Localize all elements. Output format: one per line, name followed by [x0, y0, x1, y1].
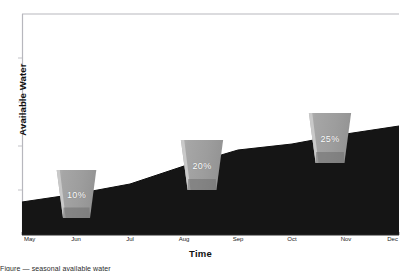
bucket-callout-nov: 25%: [306, 113, 354, 163]
bucket-base-icon: [178, 179, 226, 190]
x-tick-label-jun: Jun: [71, 236, 81, 242]
bucket-percent-label-nov: 25%: [321, 134, 340, 144]
y-axis-title: Available Water: [17, 40, 28, 160]
bucket-callout-jun: 10%: [54, 170, 99, 218]
x-tick-label-nov: Nov: [341, 236, 352, 242]
x-axis-title: Time: [0, 248, 401, 259]
x-tick-label-may: May: [24, 236, 35, 242]
figure-caption-clipped: Figure — seasonal available water: [0, 265, 401, 271]
x-tick-label-oct: Oct: [287, 236, 296, 242]
bucket-base-icon: [306, 152, 354, 163]
bucket-percent-label-aug: 20%: [193, 161, 212, 171]
figure-caption-text: Figure — seasonal available water: [0, 265, 401, 271]
x-tick-label-aug: Aug: [179, 236, 190, 242]
bucket-base-icon: [54, 207, 99, 218]
chart-figure: Available Water Time May Jun Jul Aug Sep…: [0, 0, 401, 271]
x-tick-label-sep: Sep: [233, 236, 244, 242]
x-tick-label-jul: Jul: [126, 236, 134, 242]
bucket-percent-label-jun: 10%: [67, 190, 86, 200]
x-tick-label-dec: Dec: [387, 236, 398, 242]
bucket-callout-aug: 20%: [178, 140, 226, 190]
